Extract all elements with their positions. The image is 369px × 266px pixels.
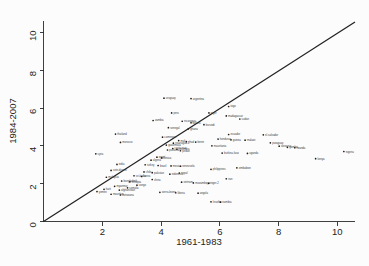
data-point <box>161 157 163 159</box>
data-point <box>167 149 169 151</box>
data-point <box>96 191 98 193</box>
data-point-label: paraguay <box>272 141 284 145</box>
data-point <box>159 192 161 194</box>
data-point-label: afghanistan <box>121 188 135 192</box>
data-point <box>239 118 241 120</box>
data-point <box>287 147 289 149</box>
data-point <box>106 176 108 178</box>
x-tick-label: 4 <box>158 226 163 237</box>
data-point <box>151 172 153 174</box>
data-point-label: china <box>154 178 161 182</box>
data-point-label: guinea <box>233 138 242 142</box>
data-point-label: cote-divoire <box>113 168 127 172</box>
data-point <box>169 173 171 175</box>
x-tick-label: 2 <box>100 226 105 237</box>
data-point <box>163 97 165 99</box>
data-point <box>129 181 131 183</box>
data-point <box>168 127 170 129</box>
data-point-label: sudan <box>242 117 250 121</box>
data-point <box>195 141 197 143</box>
data-point-label: pakistan <box>154 171 165 175</box>
data-point-label: ecuador <box>230 132 240 136</box>
data-point-label: kenya <box>317 157 325 161</box>
data-point-label: india <box>119 162 125 166</box>
data-point-label: guatemala <box>168 143 181 147</box>
data-point <box>225 178 227 180</box>
data-point <box>225 115 227 117</box>
data-point <box>141 176 143 178</box>
data-point <box>118 189 120 191</box>
y-tick-label: 8 <box>28 71 39 76</box>
data-point <box>221 152 223 154</box>
data-point <box>181 181 183 183</box>
data-point <box>208 112 210 114</box>
data-point <box>315 158 317 160</box>
data-point <box>193 182 195 184</box>
data-point-label: malaysia <box>108 175 119 179</box>
data-point <box>162 136 164 138</box>
data-point <box>210 168 212 170</box>
data-point-label: yemen <box>99 191 108 194</box>
data-point <box>180 150 182 152</box>
x-tick-label: 10 <box>332 226 343 237</box>
data-point-label: cameroon <box>164 135 176 139</box>
data-point <box>343 151 345 153</box>
data-point <box>116 164 118 166</box>
data-point-label: rwanda <box>297 146 306 150</box>
data-point <box>171 112 173 114</box>
data-point-label: niger-2 <box>210 181 219 185</box>
data-point <box>150 159 152 161</box>
data-point-label: chile <box>146 170 152 174</box>
data-point-label: bolivia <box>193 121 201 125</box>
data-point-label: ghana <box>190 127 198 131</box>
data-point-label: brazil <box>160 164 167 168</box>
data-point-label: senegal <box>170 126 180 130</box>
data-point <box>121 180 123 182</box>
x-axis-title: 1961-1983 <box>176 236 221 247</box>
data-point <box>156 156 158 158</box>
data-point <box>278 145 280 147</box>
data-point-label: botswana <box>122 193 134 197</box>
data-point-label: burundi <box>206 123 215 127</box>
y-tick-label: 2 <box>28 184 39 189</box>
data-point <box>220 201 222 203</box>
data-point <box>181 120 183 122</box>
data-point <box>136 184 138 186</box>
x-tick-label: 8 <box>276 226 281 237</box>
data-point-label: thailand <box>117 132 127 136</box>
data-point <box>211 145 213 147</box>
data-point <box>270 142 272 144</box>
data-point <box>190 98 192 100</box>
y-tick-label: 0 <box>28 222 39 227</box>
data-point <box>228 134 230 136</box>
data-point <box>208 182 210 184</box>
data-point <box>294 147 296 149</box>
data-point-label: congo <box>139 184 147 187</box>
data-point-label: myanmar <box>116 184 127 188</box>
data-point-label: liberia <box>178 191 186 195</box>
data-point-label: zambia <box>155 118 164 122</box>
data-point <box>152 120 154 122</box>
data-point <box>228 106 230 108</box>
data-point-label: togo <box>230 104 236 108</box>
data-point <box>114 185 116 187</box>
data-point <box>115 133 117 135</box>
data-point-label: peru <box>173 111 179 115</box>
data-point-label: uruguay <box>166 96 176 100</box>
data-point <box>247 153 249 155</box>
data-point <box>144 164 146 166</box>
data-point-label: zimbabwe <box>239 166 252 170</box>
plot-canvas: 0246810 246810 argentinauruguaytogoperun… <box>0 0 369 266</box>
data-point <box>244 139 246 141</box>
data-point-label: iran <box>228 177 233 181</box>
data-point-label: jordan <box>181 149 190 153</box>
data-point-label: panama <box>169 149 179 152</box>
scatter-plot-figure: 0246810 246810 argentinauruguaytogoperun… <box>0 0 369 266</box>
y-tick-label: 10 <box>28 30 39 41</box>
data-point-label: namibia <box>222 200 232 204</box>
data-point-label: korea <box>143 174 150 178</box>
data-point <box>143 171 145 173</box>
data-point <box>197 192 199 194</box>
data-point <box>230 139 232 141</box>
data-point-label: burkina-faso <box>224 151 239 155</box>
